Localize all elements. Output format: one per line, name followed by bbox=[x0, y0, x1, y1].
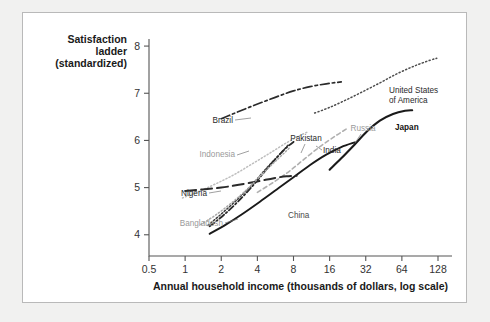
y-tick-label-5: 5 bbox=[134, 181, 140, 193]
series-label-india: India bbox=[323, 146, 341, 155]
series-label-brazil: Brazil bbox=[213, 116, 234, 125]
y-tick-label-4: 4 bbox=[134, 228, 140, 240]
x-tick-label-4: 4 bbox=[254, 263, 260, 275]
x-tick-label-1: 1 bbox=[182, 263, 188, 275]
series-label-pakistan: Pakistan bbox=[290, 134, 322, 143]
series-layer bbox=[182, 58, 436, 233]
series-label-bangladesh: Bangladesh bbox=[180, 219, 224, 228]
x-tick-label-64: 64 bbox=[396, 263, 408, 275]
series-label-japan: Japan bbox=[395, 123, 419, 132]
satisfaction-vs-income-chart: 456780.51248163264128Annual household in… bbox=[23, 13, 466, 302]
leader-line-bangladesh bbox=[225, 219, 238, 223]
leader-line-nigeria bbox=[209, 191, 221, 193]
series-label-china: China bbox=[288, 211, 310, 220]
y-axis-title-line-3: (standardized) bbox=[55, 57, 127, 69]
y-tick-label-7: 7 bbox=[134, 87, 140, 99]
x-tick-label-8: 8 bbox=[291, 263, 297, 275]
x-axis-title: Annual household income (thousands of do… bbox=[153, 280, 448, 292]
figure-panel: 456780.51248163264128Annual household in… bbox=[22, 12, 467, 303]
screenshot-root: 456780.51248163264128Annual household in… bbox=[0, 0, 490, 322]
x-tick-label-16: 16 bbox=[324, 263, 336, 275]
y-tick-label-6: 6 bbox=[134, 134, 140, 146]
series-label-nigeria: Nigeria bbox=[181, 189, 207, 198]
x-tick-label-32: 32 bbox=[360, 263, 372, 275]
series-label-indonesia: Indonesia bbox=[199, 150, 235, 159]
leader-line-brazil bbox=[235, 118, 251, 120]
y-axis-title-line-1: Satisfaction bbox=[67, 33, 127, 45]
series-line-japan bbox=[330, 110, 413, 169]
labels-layer: BrazilUnited Statesof AmericaIndonesiaPa… bbox=[180, 86, 438, 228]
leader-line-pakistan bbox=[301, 144, 305, 153]
leader-line-indonesia bbox=[237, 151, 249, 155]
x-tick-label-2: 2 bbox=[218, 263, 224, 275]
x-tick-label-0.5: 0.5 bbox=[142, 263, 157, 275]
x-tick-label-128: 128 bbox=[429, 263, 447, 275]
y-tick-label-8: 8 bbox=[134, 40, 140, 52]
y-axis-title-line-2: ladder bbox=[95, 45, 127, 57]
series-line-brazil bbox=[221, 82, 341, 119]
series-label-united-states-of-america: United States bbox=[389, 86, 438, 95]
series-label-russia: Russia bbox=[350, 124, 375, 133]
series-label-united-states-of-america: of America bbox=[389, 96, 428, 105]
